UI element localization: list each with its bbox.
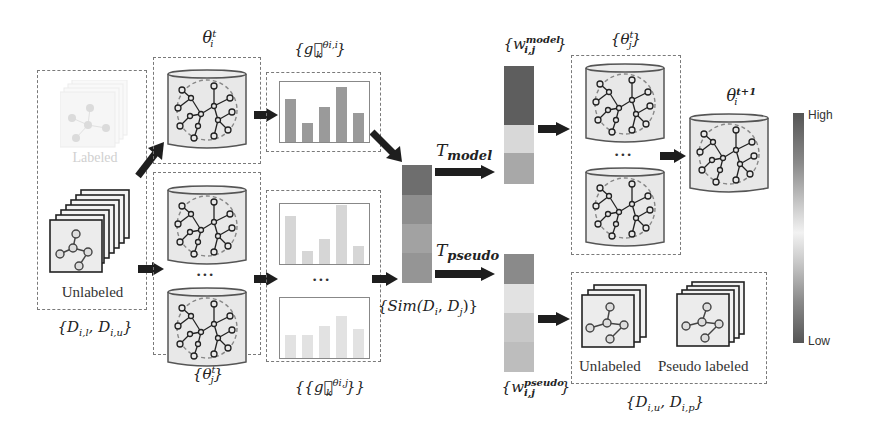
gradient-bar: [302, 251, 313, 264]
arrow-local-grad-to-sim: [370, 128, 406, 164]
peer-models-label: {θtj}: [178, 365, 238, 383]
gradient-bar: [336, 316, 347, 358]
w-model-label: {wmodeli,j}: [490, 35, 580, 53]
peer-model-cylinder-1: [166, 184, 248, 268]
gradient-bar: [353, 246, 364, 264]
gradient-bar: [285, 216, 296, 264]
t-model-label: Tmodel: [436, 140, 492, 160]
local-model-label: θti: [183, 28, 233, 47]
peer-gradient-chart-1: [279, 203, 370, 265]
local-gradient-label: {g⃗θi,ik}: [280, 40, 360, 58]
gradient-bar: [353, 113, 364, 142]
aggregated-peer-cylinder-1: [584, 62, 666, 146]
updated-model-label: θt+1i: [702, 86, 762, 105]
pseudo-labeled-graph-stack: [672, 280, 748, 350]
gradient-bar: [302, 123, 313, 142]
unlabeled-caption-right: Unlabeled: [579, 358, 641, 375]
arrow-w-pseudo-to-data: [538, 312, 570, 326]
arrow-t-model: [435, 165, 495, 179]
unlabeled-graph-stack-right: [580, 283, 650, 349]
gradient-bar: [285, 99, 296, 142]
peer-model-cylinder-2: [166, 286, 248, 370]
gradient-bar: [319, 326, 330, 358]
arrow-w-model-to-peers: [538, 122, 570, 136]
peer-gradient-chart-2: [279, 297, 370, 359]
updated-model-cylinder: [688, 112, 770, 196]
gradient-bar: [336, 87, 347, 142]
colorbar-high-label: High: [808, 108, 833, 122]
similarity-label: {Sim(Di, Dj)}: [378, 297, 478, 315]
output-dataset-label: {Di,u, Di,p}: [610, 393, 720, 411]
arrow-t-pseudo: [435, 267, 495, 281]
gradient-bar: [302, 335, 313, 358]
colorbar-low-label: Low: [808, 334, 830, 348]
gradient-bar: [319, 239, 330, 264]
aggregated-peers-label: {θtj}: [596, 30, 656, 48]
aggregated-peers-ellipsis: •••: [614, 150, 633, 160]
gradient-bar: [353, 329, 364, 358]
local-model-cylinder: [166, 68, 248, 152]
peer-gradient-label: {{g⃗θi,jk}}: [285, 378, 375, 396]
gradient-bar: [336, 205, 347, 264]
w-model-heatmap: [504, 66, 534, 184]
local-gradient-chart: [279, 81, 370, 143]
t-pseudo-label: Tpseudo: [436, 240, 499, 260]
labeled-caption: Labeled: [55, 150, 135, 166]
unlabeled-caption-left: Unlabeled: [45, 284, 140, 301]
peer-gradients-ellipsis: •••: [312, 275, 331, 285]
gradient-bar: [285, 335, 296, 358]
labeled-graph-stack: [60, 80, 130, 150]
colorbar: [793, 113, 804, 343]
pseudo-labeled-caption: Pseudo labeled: [658, 358, 748, 375]
aggregated-peer-cylinder-2: [584, 166, 666, 250]
similarity-heatmap: [402, 165, 432, 283]
arrow-peer-grad-to-sim: [372, 272, 398, 286]
arrow-to-updated-model: [660, 149, 686, 163]
peer-models-ellipsis: •••: [196, 270, 215, 280]
w-pseudo-heatmap: [504, 254, 534, 372]
input-dataset-label: {Di,l, Di,u}: [30, 318, 160, 336]
gradient-bar: [319, 107, 330, 142]
unlabeled-graph-stack: [45, 188, 137, 274]
